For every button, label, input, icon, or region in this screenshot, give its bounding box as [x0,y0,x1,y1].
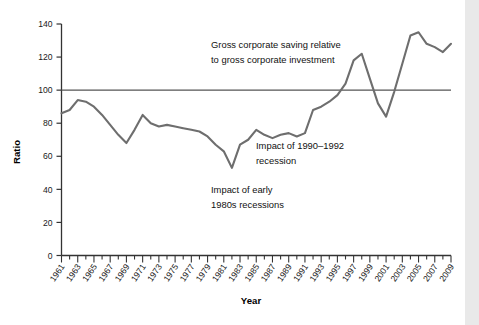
x-axis-tick-label: 1987 [259,262,278,284]
y-axis-ticks [57,24,62,256]
annotation-series-label: Gross corporate saving relative to gross… [211,39,341,65]
x-axis-tick-label: 1989 [275,262,294,284]
x-axis-tick-label: 2001 [372,262,391,284]
chart-figure: 020406080100120140 196119631965196719691… [0,0,479,325]
x-axis-tick-label: 2005 [405,262,424,284]
x-axis-tick-label: 2009 [437,262,456,284]
y-axis-tick-label: 120 [38,52,53,62]
y-axis-tick-label: 100 [38,85,53,95]
x-axis-ticks [62,256,452,263]
y-axis-tick-label: 0 [48,251,53,261]
x-axis-tick-label: 1993 [307,262,326,284]
annotation-series-label-line1: Gross corporate saving relative [211,39,341,50]
x-axis-tick-label: 1971 [129,262,148,284]
annotation-recession-1990-1992: Impact of 1990–1992 recession [256,140,344,166]
x-axis-tick-label: 1999 [356,262,375,284]
annotation-recession-early-1980s: Impact of early 1980s recessions [211,184,284,210]
annotation-series-label-line2: to gross corporate investment [211,54,335,65]
y-axis-tick-labels: 020406080100120140 [38,19,53,261]
x-axis-tick-label: 2007 [421,262,440,284]
y-axis-title: Ratio [11,140,22,164]
x-axis-tick-label: 1975 [161,262,180,284]
x-axis-tick-label: 1967 [96,262,115,284]
x-axis-tick-label: 1965 [80,262,99,284]
y-axis-tick-label: 60 [43,151,53,161]
y-axis-tick-label: 140 [38,19,53,29]
annotation-recession-1980-line2: 1980s recessions [211,199,284,210]
x-axis-tick-label: 1977 [178,262,197,284]
x-axis-tick-label: 1991 [291,262,310,284]
x-axis-tick-label: 1997 [340,262,359,284]
annotation-recession-1980-line1: Impact of early [211,184,273,195]
annotation-recession-1990-line2: recession [256,155,296,166]
x-axis-tick-label: 1973 [145,262,164,284]
x-axis-tick-label: 1961 [48,262,67,284]
x-axis-tick-label: 1985 [242,262,261,284]
x-axis-tick-label: 1981 [210,262,229,284]
x-axis-tick-label: 1995 [324,262,343,284]
x-axis-title: Year [241,295,262,306]
y-axis-tick-label: 20 [43,218,53,228]
x-axis-tick-label: 1969 [113,262,132,284]
ratio-line-chart: 020406080100120140 196119631965196719691… [0,0,479,325]
y-axis-tick-label: 80 [43,118,53,128]
x-axis-tick-label: 2003 [388,262,407,284]
x-axis-tick-label: 1979 [194,262,213,284]
x-axis-tick-label: 1983 [226,262,245,284]
annotation-recession-1990-line1: Impact of 1990–1992 [256,140,344,151]
x-axis-tick-label: 1963 [64,262,83,284]
right-edge-strip [465,0,479,325]
y-axis-tick-label: 40 [43,185,53,195]
x-axis-tick-labels: 1961196319651967196919711973197519771979… [48,262,457,284]
